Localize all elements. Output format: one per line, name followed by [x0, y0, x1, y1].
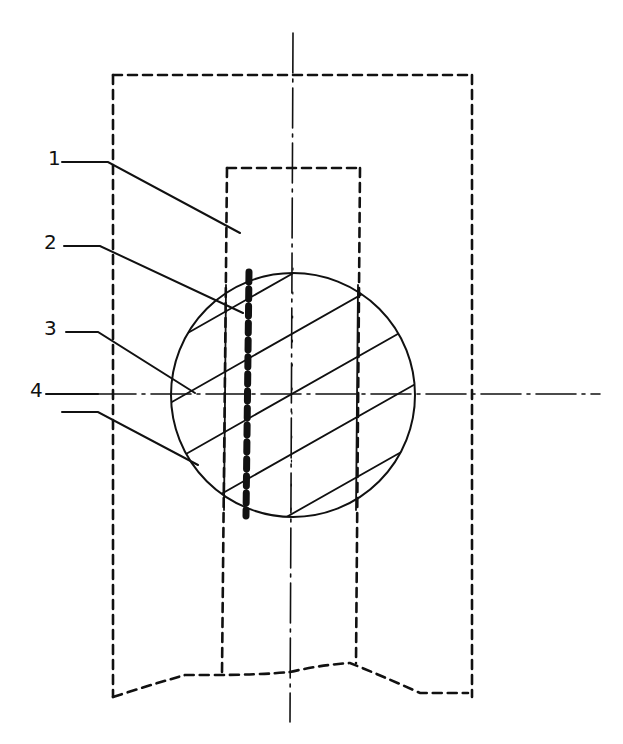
thick-strip	[246, 272, 249, 516]
drawing-canvas	[0, 0, 623, 744]
label-1: 1	[48, 148, 61, 168]
hatched-circle	[171, 273, 415, 517]
label-4: 4	[30, 380, 43, 400]
leader-lines	[46, 162, 243, 465]
label-2: 2	[44, 232, 57, 252]
label-3: 3	[44, 318, 57, 338]
